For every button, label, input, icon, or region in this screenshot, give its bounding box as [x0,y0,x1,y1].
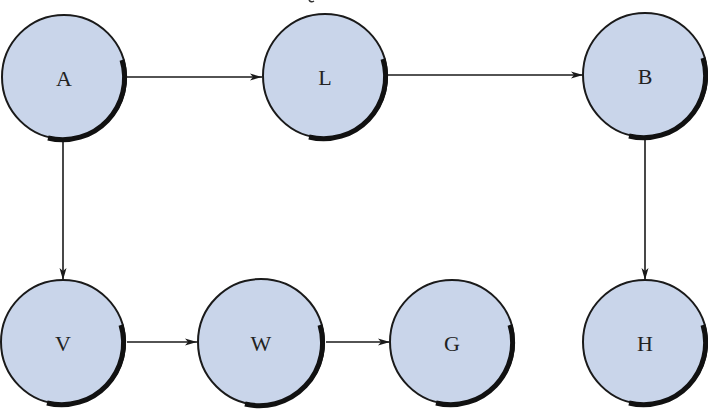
node-w-label: W [251,331,272,356]
node-b-label: B [638,64,653,89]
node-a-label: A [56,66,72,91]
graph-diagram: A L B V W G H [0,0,708,413]
cropped-text-fragment [309,0,314,2]
node-g-label: G [444,331,460,356]
node-a: A [2,15,126,140]
node-w: W [198,279,324,406]
node-g: G [390,280,514,405]
node-l-label: L [318,65,331,90]
node-h-label: H [637,331,653,356]
node-v-label: V [55,331,71,356]
node-l: L [263,14,387,139]
node-h: H [583,280,707,405]
node-b: B [583,13,707,138]
node-v: V [1,280,125,405]
